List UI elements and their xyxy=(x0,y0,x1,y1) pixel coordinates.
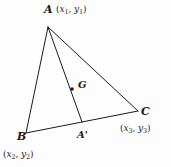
segment-median-a-aprime xyxy=(48,27,82,122)
coord-x-sub-b: 2 xyxy=(11,153,15,161)
coord-x-sub-a: 1 xyxy=(64,8,68,16)
vertex-label-b: B xyxy=(17,131,26,142)
vertex-coords-c: (x3, y3) xyxy=(120,124,150,133)
midpoint-label-a-prime: A' xyxy=(77,130,88,140)
centroid-point-marker xyxy=(70,87,74,91)
segment-ca xyxy=(48,27,138,111)
coord-y-sub-a: 1 xyxy=(79,8,83,16)
vertex-label-a: A xyxy=(44,4,53,15)
coord-x-sub-c: 3 xyxy=(128,127,132,135)
vertex-coords-a: (x1, y1) xyxy=(56,5,86,14)
coord-y-sub-b: 2 xyxy=(26,153,30,161)
paren-close-b: ) xyxy=(30,149,33,159)
paren-close-c: ) xyxy=(147,123,150,133)
centroid-label-g: G xyxy=(78,80,87,90)
segment-ab xyxy=(26,27,48,133)
coord-y-sub-c: 3 xyxy=(143,127,147,135)
vertex-coords-b: (x2, y2) xyxy=(3,150,33,159)
vertex-label-c: C xyxy=(141,106,150,117)
paren-close-a: ) xyxy=(83,4,86,14)
geometry-figure: A (x1, y1) B (x2, y2) C (x3, y3) G A' xyxy=(0,0,171,167)
